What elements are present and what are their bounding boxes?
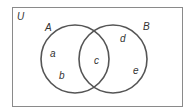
element-a: a xyxy=(50,48,56,59)
universe-label: U xyxy=(17,11,25,22)
set-b-label: B xyxy=(143,21,150,32)
element-d: d xyxy=(120,33,126,44)
venn-diagram: U A B a b c d e xyxy=(0,0,191,112)
element-e: e xyxy=(133,65,139,76)
element-b: b xyxy=(59,70,65,81)
element-c: c xyxy=(94,55,99,66)
set-a-label: A xyxy=(44,22,52,33)
